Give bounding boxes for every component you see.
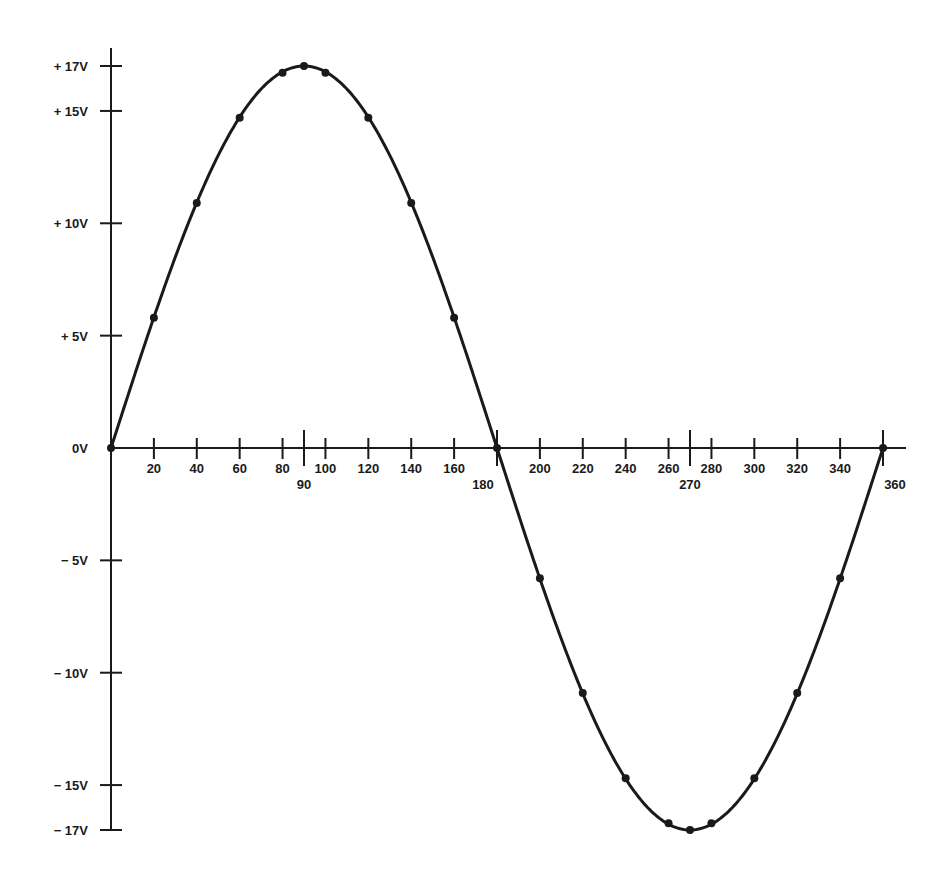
data-point bbox=[836, 574, 844, 582]
x-tick-label: 220 bbox=[572, 461, 594, 476]
x-tick-label: 280 bbox=[701, 461, 723, 476]
data-point bbox=[579, 689, 587, 697]
x-tick-label: 140 bbox=[400, 461, 422, 476]
x-tick-label: 200 bbox=[529, 461, 551, 476]
data-point bbox=[107, 444, 115, 452]
data-point bbox=[150, 314, 158, 322]
axes bbox=[111, 48, 906, 830]
x-tick-label: 90 bbox=[297, 477, 311, 492]
y-tick-label: + 15V bbox=[54, 104, 89, 119]
data-point bbox=[279, 69, 287, 77]
x-tick-label: 100 bbox=[315, 461, 337, 476]
data-point bbox=[236, 114, 244, 122]
x-tick-label: 180 bbox=[472, 477, 494, 492]
x-tick-label: 80 bbox=[275, 461, 289, 476]
data-point bbox=[750, 774, 758, 782]
data-point bbox=[879, 444, 887, 452]
x-tick-label: 360 bbox=[884, 477, 906, 492]
data-point bbox=[300, 62, 308, 70]
y-tick-label: + 17V bbox=[54, 59, 89, 74]
x-tick-label: 340 bbox=[829, 461, 851, 476]
data-point bbox=[536, 574, 544, 582]
sine-wave-chart: + 17V+ 15V+ 10V+ 5V0V− 5V− 10V− 15V− 17V… bbox=[0, 0, 949, 879]
x-tick-label: 160 bbox=[443, 461, 465, 476]
x-tick-label: 60 bbox=[232, 461, 246, 476]
data-point bbox=[450, 314, 458, 322]
y-tick-label: − 17V bbox=[54, 823, 89, 838]
x-tick-label: 20 bbox=[147, 461, 161, 476]
y-tick-label: − 5V bbox=[61, 553, 88, 568]
x-tick-label: 300 bbox=[743, 461, 765, 476]
data-point bbox=[665, 819, 673, 827]
y-tick-label: + 5V bbox=[61, 329, 88, 344]
x-tick-label: 270 bbox=[679, 477, 701, 492]
data-point bbox=[193, 199, 201, 207]
x-tick-label: 40 bbox=[190, 461, 204, 476]
y-tick-label: − 15V bbox=[54, 778, 89, 793]
y-tick-label: 0V bbox=[72, 441, 88, 456]
y-tick-label: + 10V bbox=[54, 216, 89, 231]
data-point bbox=[686, 826, 694, 834]
data-point bbox=[493, 444, 501, 452]
data-point bbox=[407, 199, 415, 207]
data-point bbox=[321, 69, 329, 77]
x-tick-label: 320 bbox=[786, 461, 808, 476]
x-tick-label: 260 bbox=[658, 461, 680, 476]
x-tick-label: 240 bbox=[615, 461, 637, 476]
data-point bbox=[364, 114, 372, 122]
x-ticks: 2040608090100120140160180200220240260270… bbox=[147, 430, 906, 492]
y-tick-label: − 10V bbox=[54, 666, 89, 681]
data-point bbox=[793, 689, 801, 697]
x-tick-label: 120 bbox=[357, 461, 379, 476]
data-point bbox=[707, 819, 715, 827]
data-point bbox=[622, 774, 630, 782]
